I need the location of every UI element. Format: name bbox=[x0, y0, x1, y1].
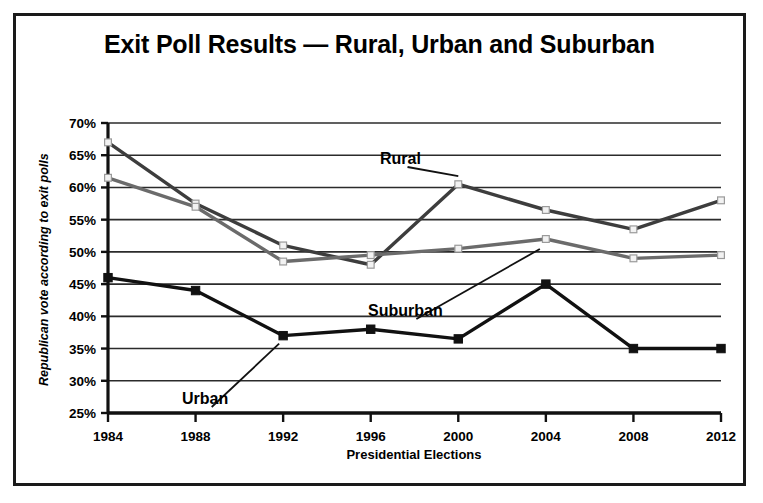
x-tick-label: 1996 bbox=[356, 429, 387, 444]
data-point-marker bbox=[279, 331, 287, 339]
data-point-marker bbox=[542, 207, 549, 214]
x-tick-label: 2008 bbox=[618, 429, 649, 444]
x-tick-label: 2012 bbox=[706, 429, 736, 444]
data-point-marker bbox=[104, 273, 112, 281]
x-tick-label: 1992 bbox=[268, 429, 298, 444]
data-point-marker bbox=[191, 286, 199, 294]
y-axis-tick-labels: 25%30%35%40%45%50%55%60%65%70% bbox=[69, 116, 96, 421]
data-point-marker bbox=[367, 252, 374, 259]
data-point-marker bbox=[280, 242, 287, 249]
y-tick-label: 45% bbox=[69, 277, 96, 292]
data-point-marker bbox=[717, 344, 725, 352]
y-tick-label: 65% bbox=[69, 148, 96, 163]
data-point-marker bbox=[718, 252, 725, 259]
x-axis-title: Presidential Elections bbox=[346, 447, 481, 462]
x-tick-label: 2000 bbox=[443, 429, 473, 444]
data-point-marker bbox=[454, 335, 462, 343]
data-point-marker bbox=[455, 245, 462, 252]
y-tick-label: 40% bbox=[69, 309, 96, 324]
x-axis-tick-labels: 19841988199219962000200420082012 bbox=[93, 429, 736, 444]
data-point-marker bbox=[280, 258, 287, 265]
data-point-marker bbox=[718, 197, 725, 204]
series-annotation-labels: RuralSuburbanUrban bbox=[182, 150, 443, 407]
data-point-marker bbox=[105, 174, 112, 181]
leader-line-rural bbox=[408, 167, 459, 176]
data-point-marker bbox=[367, 261, 374, 268]
data-point-marker bbox=[542, 280, 550, 288]
y-axis-title: Republican vote according to exit polls bbox=[37, 153, 51, 386]
chart-frame: Exit Poll Results — Rural, Urban and Sub… bbox=[13, 13, 746, 486]
x-tick-label: 2004 bbox=[531, 429, 562, 444]
y-tick-label: 30% bbox=[69, 374, 96, 389]
y-tick-label: 50% bbox=[69, 245, 96, 260]
x-tick-label: 1988 bbox=[181, 429, 212, 444]
y-tick-label: 55% bbox=[69, 213, 96, 228]
data-point-marker bbox=[455, 181, 462, 188]
x-tick-label: 1984 bbox=[93, 429, 124, 444]
y-tick-label: 60% bbox=[69, 180, 96, 195]
series-label-rural: Rural bbox=[380, 150, 421, 167]
data-point-marker bbox=[630, 226, 637, 233]
series-label-suburban: Suburban bbox=[368, 302, 443, 319]
data-point-marker bbox=[629, 344, 637, 352]
data-point-marker bbox=[630, 255, 637, 262]
data-point-marker bbox=[367, 325, 375, 333]
data-point-marker bbox=[192, 203, 199, 210]
data-series-group bbox=[104, 139, 725, 353]
data-point-marker bbox=[542, 236, 549, 243]
y-tick-label: 70% bbox=[69, 116, 96, 131]
annotation-leader-lines bbox=[212, 167, 540, 407]
data-point-marker bbox=[105, 139, 112, 146]
series-label-urban: Urban bbox=[182, 390, 228, 407]
y-tick-label: 35% bbox=[69, 342, 96, 357]
y-tick-label: 25% bbox=[69, 406, 96, 421]
line-chart-plot: 25%30%35%40%45%50%55%60%65%70% 198419881… bbox=[16, 16, 743, 483]
